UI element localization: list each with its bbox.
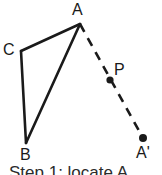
geometry-figure: A C B P A' Step 1: locate A [0,0,162,175]
vertex-label-b: B [20,147,31,163]
point-label-a-prime: A' [136,145,150,161]
segment-a-to-c [21,24,80,51]
segment-c-to-b [21,51,26,143]
caption-strip: Step 1: locate A [0,164,162,175]
vertex-label-c: C [3,42,15,58]
segment-b-to-a [26,24,80,143]
point-label-p: P [114,62,125,78]
vertex-label-a: A [72,2,83,18]
caption-text: Step 1: locate A [9,164,128,175]
point-marker-p [106,76,113,83]
point-marker-aprime [139,134,147,142]
